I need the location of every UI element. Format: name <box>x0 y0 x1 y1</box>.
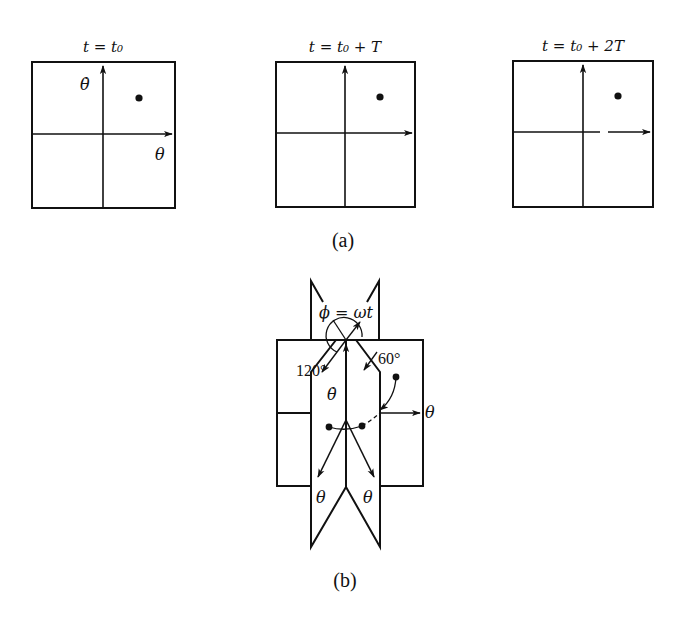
phase-point <box>376 93 383 100</box>
theta-right-label: θ <box>425 403 435 422</box>
phase-point <box>135 94 142 101</box>
caption-a: (a) <box>332 229 354 252</box>
y-axis-label: θ̇ <box>80 75 90 94</box>
angle-120-label: 120° <box>296 362 326 379</box>
panel-t0-plus-T: t = t₀ + T <box>276 38 415 207</box>
panel-t0: t = t₀ θ̇ θ <box>32 38 175 208</box>
panel-title: t = t₀ + 2T <box>542 37 625 55</box>
x-axis-label: θ <box>155 145 165 164</box>
phase-point <box>614 92 621 99</box>
theta-bottom-right-label: θ <box>363 488 373 507</box>
panel-title: t = t₀ <box>83 38 123 56</box>
theta-dot-label: θ̇ <box>327 385 337 404</box>
caption-b: (b) <box>333 569 356 592</box>
panel-title: t = t₀ + T <box>309 38 382 56</box>
theta-bottom-left-label: θ <box>316 488 326 507</box>
panel-t0-plus-2T: t = t₀ + 2T <box>513 37 653 207</box>
angle-60-label: 60° <box>378 350 400 367</box>
phi-label: ϕ = ωt <box>319 303 374 322</box>
figure-canvas: t = t₀ θ̇ θ t = t₀ + T t = t₀ + 2T (a) <box>0 0 680 617</box>
